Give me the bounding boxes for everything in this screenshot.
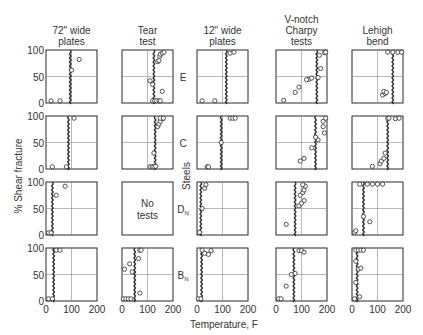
x-tick-label: 0 (273, 304, 279, 315)
data-point (324, 116, 328, 120)
data-point (204, 183, 208, 187)
data-point (319, 66, 323, 70)
data-point (305, 78, 309, 82)
y-tick-label: 100 (27, 243, 44, 254)
row-label-D: DN (177, 204, 189, 216)
data-point (63, 184, 67, 188)
data-point (370, 182, 374, 186)
x-tick-label: 100 (63, 304, 80, 315)
no-tests-label: tests (137, 210, 158, 221)
data-point (200, 99, 204, 103)
data-point (219, 140, 223, 144)
data-point (316, 75, 320, 79)
data-point (386, 50, 390, 54)
y-axis-label: % Shear fracture (13, 138, 24, 213)
panel-r4-c4: 0100200 (273, 248, 336, 315)
y-tick-label: 0 (38, 230, 44, 241)
panel-r3-c1: 050100 (27, 177, 97, 241)
data-point (358, 182, 362, 186)
data-point (302, 198, 306, 202)
data-point (197, 230, 201, 234)
column-header-1: plates (58, 36, 85, 47)
y-tick-label: 50 (33, 270, 45, 281)
x-tick-label: 0 (194, 304, 200, 315)
data-point (69, 68, 73, 72)
data-point (354, 229, 358, 233)
data-point (213, 99, 217, 103)
data-point (130, 270, 134, 274)
panel-r1-c2 (122, 50, 173, 104)
y-tick-label: 100 (27, 45, 44, 56)
panel-r2-c1: 050100 (27, 111, 97, 175)
data-point (64, 165, 68, 169)
data-point (313, 135, 317, 139)
x-tick-label: 200 (395, 304, 412, 315)
panel-r3-c2: Notests (122, 182, 173, 235)
data-point (397, 116, 401, 120)
data-point (162, 50, 166, 54)
y-tick-label: 0 (38, 98, 44, 109)
data-point (293, 271, 297, 275)
shear-fracture-figure: 72" wideplatesTeartest12" wideplatesV-no… (0, 0, 423, 335)
y-tick-label: 50 (33, 72, 45, 83)
panel-r4-c3: 0100200 (194, 248, 257, 315)
data-point (58, 248, 62, 252)
x-tick-label: 0 (349, 304, 355, 315)
data-point (154, 164, 158, 168)
data-point (284, 284, 288, 288)
data-point (400, 50, 404, 54)
data-point (158, 99, 162, 103)
column-header-4: Charpy (285, 25, 317, 36)
panel-r1-c5 (352, 50, 404, 104)
data-point (391, 50, 395, 54)
data-point (279, 297, 283, 301)
data-point (49, 231, 53, 235)
row-label-C: C (179, 138, 186, 149)
data-point (138, 291, 142, 295)
data-point (152, 151, 156, 155)
column-headers: 72" wideplatesTeartest12" wideplatesV-no… (52, 14, 392, 47)
data-point (49, 99, 53, 103)
panel-r4-c2: 0100200 (119, 248, 182, 315)
data-point (352, 297, 356, 301)
data-point (232, 50, 236, 54)
column-header-5: Lehigh (362, 25, 392, 36)
column-header-3: 12" wide (203, 25, 241, 36)
data-point (200, 206, 204, 210)
data-point (383, 151, 387, 155)
panel-r3-c3 (197, 182, 248, 236)
data-point (317, 53, 321, 57)
data-point (361, 214, 365, 218)
data-point (365, 182, 369, 186)
panel-r2-c4 (276, 116, 328, 170)
data-point (160, 89, 164, 93)
data-point (382, 156, 386, 160)
column-header-4: V-notch (285, 14, 319, 25)
data-point (129, 297, 133, 301)
x-tick-label: 200 (89, 304, 106, 315)
row-label-B: BN (177, 270, 188, 282)
data-point (359, 266, 363, 270)
panel-r4-c5: 0100200 (349, 248, 412, 315)
data-point (297, 85, 301, 89)
data-point (302, 156, 306, 160)
data-point (354, 259, 358, 263)
column-header-3: plates (209, 36, 236, 47)
data-point (284, 222, 288, 226)
data-point (358, 295, 362, 299)
x-tick-label: 0 (119, 304, 125, 315)
x-tick-label: 100 (214, 304, 231, 315)
x-tick-label: 100 (293, 304, 310, 315)
data-point (384, 90, 388, 94)
data-point (233, 116, 237, 120)
data-point (282, 98, 286, 102)
data-point (157, 59, 161, 63)
data-point (58, 99, 62, 103)
data-point (77, 57, 81, 61)
data-point (301, 183, 305, 187)
x-tick-label: 100 (139, 304, 156, 315)
panel-r1-c1: 050100 (27, 45, 97, 109)
y-tick-label: 50 (33, 138, 45, 149)
data-point (293, 90, 297, 94)
data-point (354, 280, 358, 284)
